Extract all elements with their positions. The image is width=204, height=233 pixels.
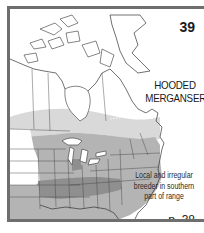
range-note: Local and irregular breeder in southern … [123,170,204,202]
plate-number: 39 [179,19,195,35]
range-note-line2: breeder in southern [123,181,204,192]
dotted-boundary [110,113,150,119]
greenland [110,15,150,73]
species-title-line2: MERGANSER [145,92,204,105]
species-title-line1: HOODED [145,79,204,92]
page-reference: p. 38 [168,213,195,222]
range-note-line1: Local and irregular [123,170,204,181]
arctic-archipelago [24,15,114,67]
range-map-plate: 39 HOODED MERGANSER Local and irregular … [7,6,204,222]
range-note-line3: part of range [123,191,204,202]
species-title: HOODED MERGANSER [145,79,204,105]
